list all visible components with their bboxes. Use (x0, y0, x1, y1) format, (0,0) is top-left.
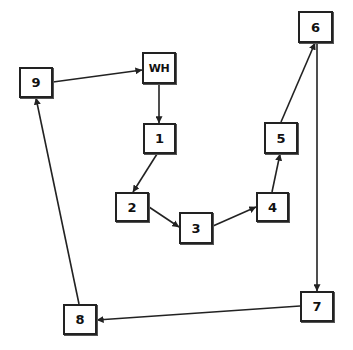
node-9: 9 (19, 67, 53, 98)
edge-3-to-4 (213, 207, 256, 226)
edge-8-to-9 (36, 98, 79, 304)
node-warehouse: WH (142, 52, 176, 84)
node-label: 7 (312, 299, 321, 314)
node-5: 5 (264, 122, 298, 154)
route-diagram: WH 1 2 3 4 5 6 7 8 9 (0, 0, 353, 350)
node-6: 6 (298, 11, 333, 43)
node-8: 8 (63, 304, 97, 335)
edge-5-to-6 (281, 43, 315, 122)
node-3: 3 (179, 212, 213, 244)
node-label: 5 (276, 131, 285, 146)
node-label: 1 (155, 131, 164, 146)
edge-group (36, 43, 317, 320)
edge-2-to-3 (149, 207, 179, 227)
node-label: 8 (75, 312, 84, 327)
node-label: 3 (191, 221, 200, 236)
node-label: 4 (268, 200, 277, 215)
edge-7-to-8 (97, 306, 300, 320)
node-4: 4 (256, 192, 289, 222)
node-label: 6 (311, 20, 320, 35)
node-1: 1 (143, 123, 176, 154)
node-7: 7 (300, 291, 334, 322)
node-2: 2 (115, 192, 149, 222)
node-label: 2 (127, 200, 136, 215)
node-label: WH (149, 62, 169, 75)
edge-1-to-2 (133, 154, 157, 192)
edge-4-to-5 (272, 154, 280, 192)
edge-9-to-WH (53, 70, 142, 82)
node-label: 9 (31, 75, 40, 90)
